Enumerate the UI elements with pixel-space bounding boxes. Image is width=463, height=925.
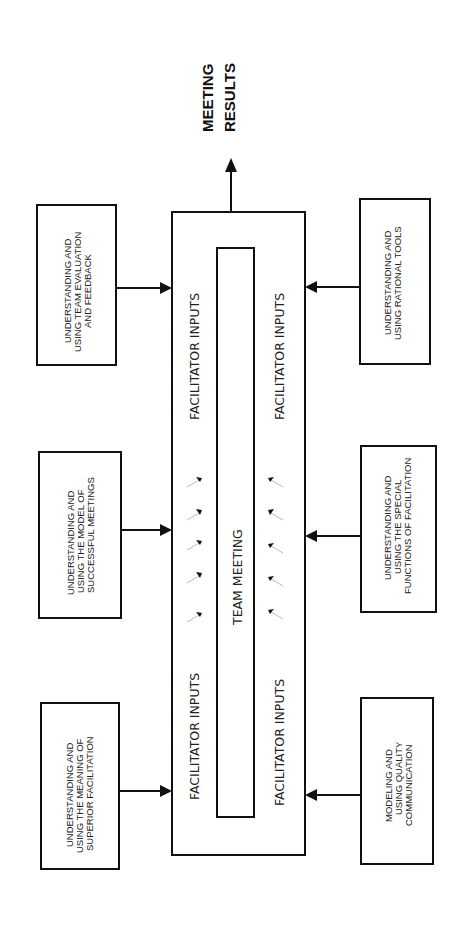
meeting-results-line1: MEETING: [199, 64, 216, 132]
left-box-team-evaluation: UNDERSTANDING AND USING TEAM EVALUATION …: [37, 205, 172, 365]
meeting-results-line2: RESULTS: [221, 63, 238, 132]
svg-text:SUCCESSFUL MEETINGS: SUCCESSFUL MEETINGS: [85, 477, 96, 593]
facilitator-inputs-label-bottom-right: FACILITATOR INPUTS: [272, 679, 287, 806]
left-box-successful-meetings: UNDERSTANDING AND USING THE MODEL OF SUC…: [39, 452, 172, 618]
arrow-left-icon: [305, 789, 317, 801]
arrow-left-icon: [305, 281, 317, 293]
svg-text:SUPERIOR FACILITATION: SUPERIOR FACILITATION: [84, 736, 95, 851]
facilitator-inputs-label-top-left: FACILITATOR INPUTS: [187, 293, 202, 420]
svg-text:FUNCTIONS OF FACILITATION: FUNCTIONS OF FACILITATION: [402, 458, 413, 594]
arrow-right-icon: [160, 785, 172, 797]
right-box-rational-tools: UNDERSTANDING AND USING RATIONAL TOOLS: [305, 199, 430, 364]
right-box-special-functions: UNDERSTANDING AND USING THE SPECIAL FUNC…: [305, 446, 436, 612]
arrow-right-icon: [160, 282, 172, 294]
left-box-superior-facilitation: UNDERSTANDING AND USING THE MEANING OF S…: [41, 703, 172, 869]
svg-text:COMMUNICATION: COMMUNICATION: [403, 744, 414, 826]
team-meeting-label: TEAM MEETING: [230, 529, 245, 626]
facilitation-diagram: MEETING RESULTS TEAM MEETING FACILITATOR…: [0, 0, 463, 925]
svg-text:AND FEEDBACK: AND FEEDBACK: [82, 253, 93, 328]
facilitator-inputs-label-top-right: FACILITATOR INPUTS: [272, 293, 287, 420]
arrow-up-icon: [225, 158, 237, 172]
arrow-left-icon: [305, 530, 317, 542]
meeting-results-output: MEETING RESULTS: [199, 63, 238, 212]
arrow-right-icon: [160, 524, 172, 536]
svg-text:USING RATIONAL TOOLS: USING RATIONAL TOOLS: [392, 226, 403, 340]
right-box-quality-communication: MODELING AND USING QUALITY COMMUNICATION: [305, 698, 433, 864]
facilitator-inputs-label-bottom-left: FACILITATOR INPUTS: [187, 673, 202, 800]
